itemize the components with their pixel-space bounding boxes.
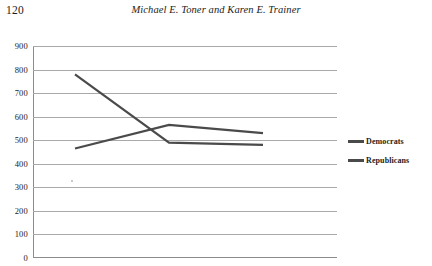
y-axis-tick-label: 900 (15, 41, 28, 51)
series-line-republicans (75, 74, 263, 145)
legend-label-democrats: Democrats (366, 137, 404, 146)
legend-label-republicans: Republicans (366, 156, 409, 165)
running-head: 120 Michael E. Toner and Karen E. Traine… (0, 4, 432, 22)
y-axis-tick-label: 700 (15, 88, 28, 98)
y-axis-tick-label: 600 (15, 112, 28, 122)
y-axis-tick-label: 800 (15, 65, 28, 75)
line-chart-figure: 9008007006005004003002001000 20062010201… (0, 36, 432, 266)
y-axis-tick-label: 100 (15, 229, 28, 239)
y-axis-tick-label: 0 (24, 253, 28, 263)
plot-area: 9008007006005004003002001000 20062010201… (33, 46, 337, 258)
y-axis-tick-label: 300 (15, 182, 28, 192)
running-head-title: Michael E. Toner and Karen E. Trainer (0, 4, 432, 15)
legend-swatch-democrats (348, 140, 364, 143)
y-axis-tick-label: 200 (15, 206, 28, 216)
series-lines (33, 46, 337, 258)
legend-item-republicans: Republicans (348, 153, 432, 168)
legend-swatch-republicans (348, 159, 364, 162)
chart-legend: Democrats Republicans (348, 134, 432, 172)
y-axis-tick-label: 500 (15, 135, 28, 145)
legend-item-democrats: Democrats (348, 134, 432, 149)
y-axis-tick-label: 400 (15, 159, 28, 169)
